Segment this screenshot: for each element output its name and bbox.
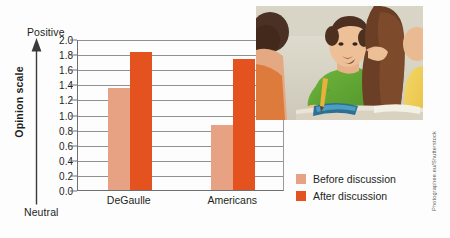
y-tick-mark xyxy=(70,160,77,161)
x-category-label: DeGaulle xyxy=(107,194,151,206)
legend-label-before: Before discussion xyxy=(313,173,396,185)
legend: Before discussion After discussion xyxy=(296,170,396,204)
up-arrow-icon xyxy=(30,38,43,206)
legend-swatch-after-icon xyxy=(296,191,306,201)
bar-after xyxy=(233,59,255,190)
plot-area xyxy=(77,40,284,191)
plot-wrapper: 2.01.81.61.41.21.00.80.60.40.20.0 xyxy=(56,40,284,191)
photo-credit: Photographee.eu/Shutterstock xyxy=(431,109,437,233)
axis-low-label: Neutral xyxy=(24,206,59,218)
bar-after xyxy=(130,52,152,190)
y-tick-mark xyxy=(70,100,77,101)
bar-before xyxy=(108,88,130,190)
y-tick-mark xyxy=(70,55,77,56)
y-tick-mark xyxy=(70,130,77,131)
bar-group xyxy=(108,40,152,190)
bar-groups xyxy=(78,40,283,190)
legend-item-after: After discussion xyxy=(296,187,396,204)
y-axis-title: Opinion scale xyxy=(13,47,25,157)
chart-figure: Positive Opinion scale Neutral 2.01.81.6… xyxy=(0,0,450,238)
y-tick-mark xyxy=(70,70,77,71)
bar-before xyxy=(211,125,233,190)
y-axis-ticks: 2.01.81.61.41.21.00.80.60.40.20.0 xyxy=(56,40,77,191)
y-tick-mark xyxy=(70,85,77,86)
discussion-photograph xyxy=(256,6,423,120)
y-tick-mark xyxy=(70,145,77,146)
legend-swatch-before-icon xyxy=(296,174,306,184)
legend-item-before: Before discussion xyxy=(296,170,396,187)
legend-label-after: After discussion xyxy=(313,190,387,202)
y-tick-mark xyxy=(70,40,77,41)
bar-group xyxy=(211,40,255,190)
x-category-label: Americans xyxy=(207,194,257,206)
y-tick-mark xyxy=(70,115,77,116)
y-tick-mark xyxy=(70,175,77,176)
y-tick-mark xyxy=(70,191,77,192)
